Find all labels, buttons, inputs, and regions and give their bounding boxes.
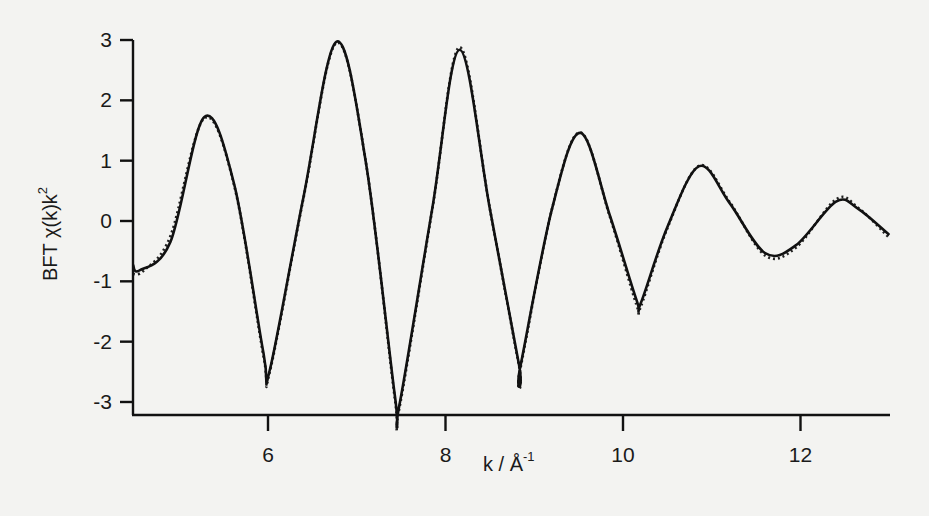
experimental-curve xyxy=(133,41,889,427)
y-tick-label: -1 xyxy=(93,269,112,292)
y-tick-label: 2 xyxy=(100,88,112,111)
exafs-chart: 3210-1-2-3 681012 k / Å-1 BFT χ(k)k2 xyxy=(0,0,929,516)
y-tick-label: 0 xyxy=(100,209,112,232)
axes: 3210-1-2-3 681012 xyxy=(93,28,890,466)
x-ticks: 681012 xyxy=(262,415,812,466)
y-ticks: 3210-1-2-3 xyxy=(93,28,133,413)
fit-curve xyxy=(133,43,889,431)
x-tick-label: 10 xyxy=(611,443,634,466)
x-tick-label: 12 xyxy=(789,443,812,466)
plot-area xyxy=(133,41,889,430)
x-tick-label: 6 xyxy=(262,443,274,466)
y-tick-label: -3 xyxy=(93,390,112,413)
x-tick-label: 8 xyxy=(440,443,452,466)
y-tick-label: 1 xyxy=(100,149,112,172)
x-axis-title: k / Å-1 xyxy=(483,449,535,475)
y-tick-label: 3 xyxy=(100,28,112,51)
y-tick-label: -2 xyxy=(93,330,112,353)
y-axis-title: BFT χ(k)k2 xyxy=(35,187,61,281)
